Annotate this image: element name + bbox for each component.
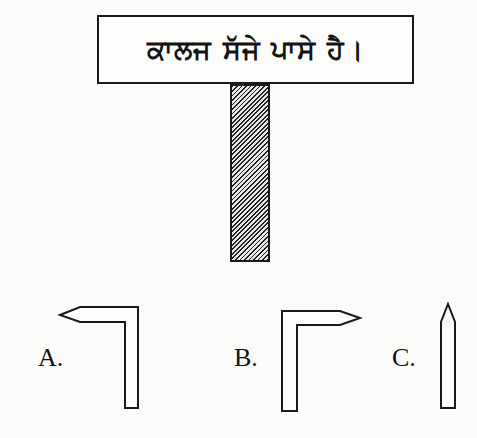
option-c-arrow-icon[interactable] [0,0,477,438]
